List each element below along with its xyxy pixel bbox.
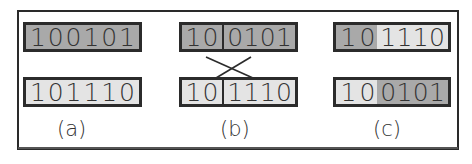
bit: 0	[380, 78, 396, 107]
bit: 0	[360, 78, 376, 107]
tail-segment: 0 1 0 1	[377, 80, 448, 104]
bit: 1	[396, 23, 412, 52]
head-segment: 1 0	[336, 80, 377, 104]
bit: 1	[380, 23, 396, 52]
bit: 1	[341, 78, 357, 107]
bit: 1	[396, 78, 412, 107]
bit: 0	[429, 23, 445, 52]
panel-b-label: (b)	[220, 117, 250, 141]
tail-segment: 1 1 1 0	[377, 25, 448, 49]
bit: 1	[413, 23, 429, 52]
bit: 1	[429, 78, 445, 107]
bit: 1	[341, 23, 357, 52]
bit: 0	[413, 78, 429, 107]
panel-c-label: (c)	[373, 117, 401, 141]
head-segment: 1 0	[336, 25, 377, 49]
panel-c-offspring-1: 1 0 1 1 1 0	[333, 22, 451, 52]
bit: 0	[360, 23, 376, 52]
panel-c-offspring-2: 1 0 0 1 0 1	[333, 77, 451, 107]
